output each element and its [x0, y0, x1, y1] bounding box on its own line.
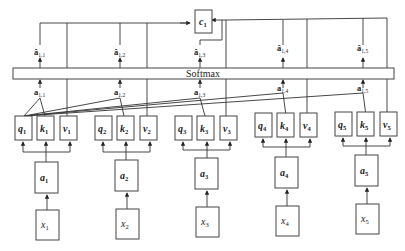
column-1: q1 k1 v1 a1 x1 [15, 116, 77, 240]
score-arrows [40, 80, 363, 88]
norm-weight-3: â1,3 [194, 47, 205, 58]
column-2: q2 k2 v2 a2 x2 [95, 116, 157, 239]
softmax-layer: Softmax [13, 68, 394, 79]
svg-text:Softmax: Softmax [186, 68, 220, 79]
score-1: a1,1 [34, 87, 45, 98]
norm-weight-2: â1,2 [114, 47, 125, 58]
score-2: a1,2 [114, 87, 125, 98]
normalized-weight-labels: â1,1 â1,2 â1,3 â1,4 â1,5 [34, 43, 368, 58]
column-3: q3 k3 v3 a3 x3 [175, 116, 237, 237]
query-key-connections [24, 79, 366, 116]
self-attention-diagram: c1 Softmax â1,1 â1,2 â1,3 â1,4 â1,5 a1,1… [0, 0, 405, 251]
output-c1: c1 [195, 10, 212, 33]
score-3: a1,3 [194, 87, 205, 98]
column-5: q5 k5 v5 a5 x5 [335, 112, 397, 234]
output-bus [40, 18, 387, 116]
norm-weight-1: â1,1 [34, 47, 45, 58]
column-4: q4 k4 v4 a4 x4 [255, 113, 317, 236]
